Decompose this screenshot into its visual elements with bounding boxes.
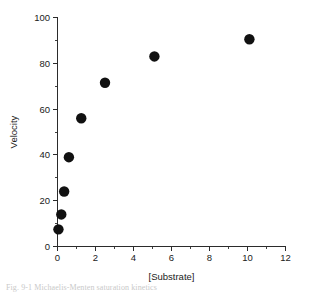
x-tick-label: 12 xyxy=(280,252,291,263)
data-point xyxy=(76,113,86,123)
x-tick-label: 8 xyxy=(207,252,212,263)
scatter-plot: 024681012020406080100[Substrate]Velocity xyxy=(0,0,310,293)
x-tick-label: 10 xyxy=(242,252,253,263)
data-point xyxy=(64,152,74,162)
data-point xyxy=(53,224,63,234)
figure-caption-strip: Fig. 9-1 Michaelis-Menten saturation kin… xyxy=(0,284,310,293)
x-tick-label: 6 xyxy=(169,252,174,263)
data-point xyxy=(100,78,110,88)
y-tick-label: 100 xyxy=(34,12,50,23)
data-point xyxy=(149,51,159,61)
x-tick-label: 0 xyxy=(55,252,60,263)
y-tick-label: 60 xyxy=(39,104,50,115)
y-tick-label: 80 xyxy=(39,58,50,69)
x-tick-label: 2 xyxy=(93,252,98,263)
data-point xyxy=(244,34,254,44)
x-axis-title: [Substrate] xyxy=(149,271,195,282)
x-tick-label: 4 xyxy=(131,252,136,263)
data-point xyxy=(59,186,69,196)
y-tick-label: 0 xyxy=(45,241,50,252)
y-tick-label: 40 xyxy=(39,149,50,160)
y-axis-title: Velocity xyxy=(8,115,19,148)
y-tick-label: 20 xyxy=(39,195,50,206)
figure-caption: Fig. 9-1 Michaelis-Menten saturation kin… xyxy=(6,284,157,292)
data-point xyxy=(56,209,66,219)
figure-container: 024681012020406080100[Substrate]Velocity… xyxy=(0,0,310,293)
